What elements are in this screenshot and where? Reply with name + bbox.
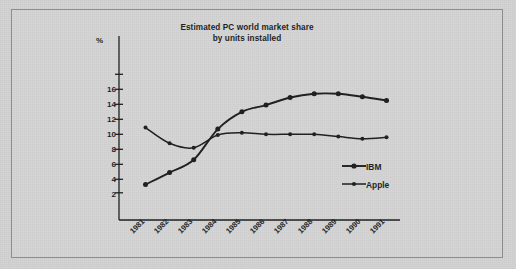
data-point-marker — [385, 135, 389, 139]
chart-axes — [115, 36, 400, 220]
y-tick-label-8: 8 — [100, 145, 116, 154]
y-tick-label-12: 12 — [100, 115, 116, 124]
chart-title-line-1: Estimated PC world market share — [152, 22, 342, 33]
series-line — [146, 128, 387, 149]
chart-title-line-2: by units installed — [152, 33, 342, 44]
legend-marker-apple — [352, 182, 356, 186]
legend-label-ibm: IBM — [366, 162, 381, 172]
data-point-marker — [191, 157, 196, 162]
data-point-marker — [264, 132, 268, 136]
data-point-marker — [240, 131, 244, 135]
chart-title: Estimated PC world market share by units… — [152, 22, 342, 44]
data-point-marker — [216, 133, 220, 137]
data-point-marker — [336, 135, 340, 139]
data-point-marker — [143, 182, 148, 187]
data-point-marker — [192, 146, 196, 150]
data-point-marker — [312, 91, 317, 96]
series-apple — [144, 126, 389, 150]
data-point-marker — [336, 91, 341, 96]
series-ibm — [143, 91, 389, 187]
legend-marks — [342, 163, 366, 186]
data-point-marker — [288, 132, 292, 136]
data-point-marker — [239, 109, 244, 114]
data-point-marker — [167, 170, 172, 175]
y-tick-label-6: 6 — [100, 160, 116, 169]
chart-series-group — [143, 91, 389, 187]
data-point-marker — [215, 127, 220, 132]
legend-label-apple: Apple — [366, 180, 389, 190]
y-tick-label-4: 4 — [100, 175, 116, 184]
chart-figure: Estimated PC world market share by units… — [0, 0, 516, 269]
data-point-marker — [312, 132, 316, 136]
data-point-marker — [360, 94, 365, 99]
y-tick-label-10: 10 — [100, 130, 116, 139]
data-point-marker — [168, 141, 172, 145]
data-point-marker — [264, 103, 269, 108]
legend-marker-ibm — [351, 163, 356, 168]
y-tick-label-2: 2 — [100, 190, 116, 199]
data-point-marker — [288, 95, 293, 100]
y-tick-label-16: 16 — [100, 85, 116, 94]
y-axis-label-percent: % — [96, 36, 103, 45]
data-point-marker — [360, 137, 364, 141]
data-point-marker — [144, 126, 148, 130]
y-tick-label-14: 14 — [100, 100, 116, 109]
data-point-marker — [384, 98, 389, 103]
